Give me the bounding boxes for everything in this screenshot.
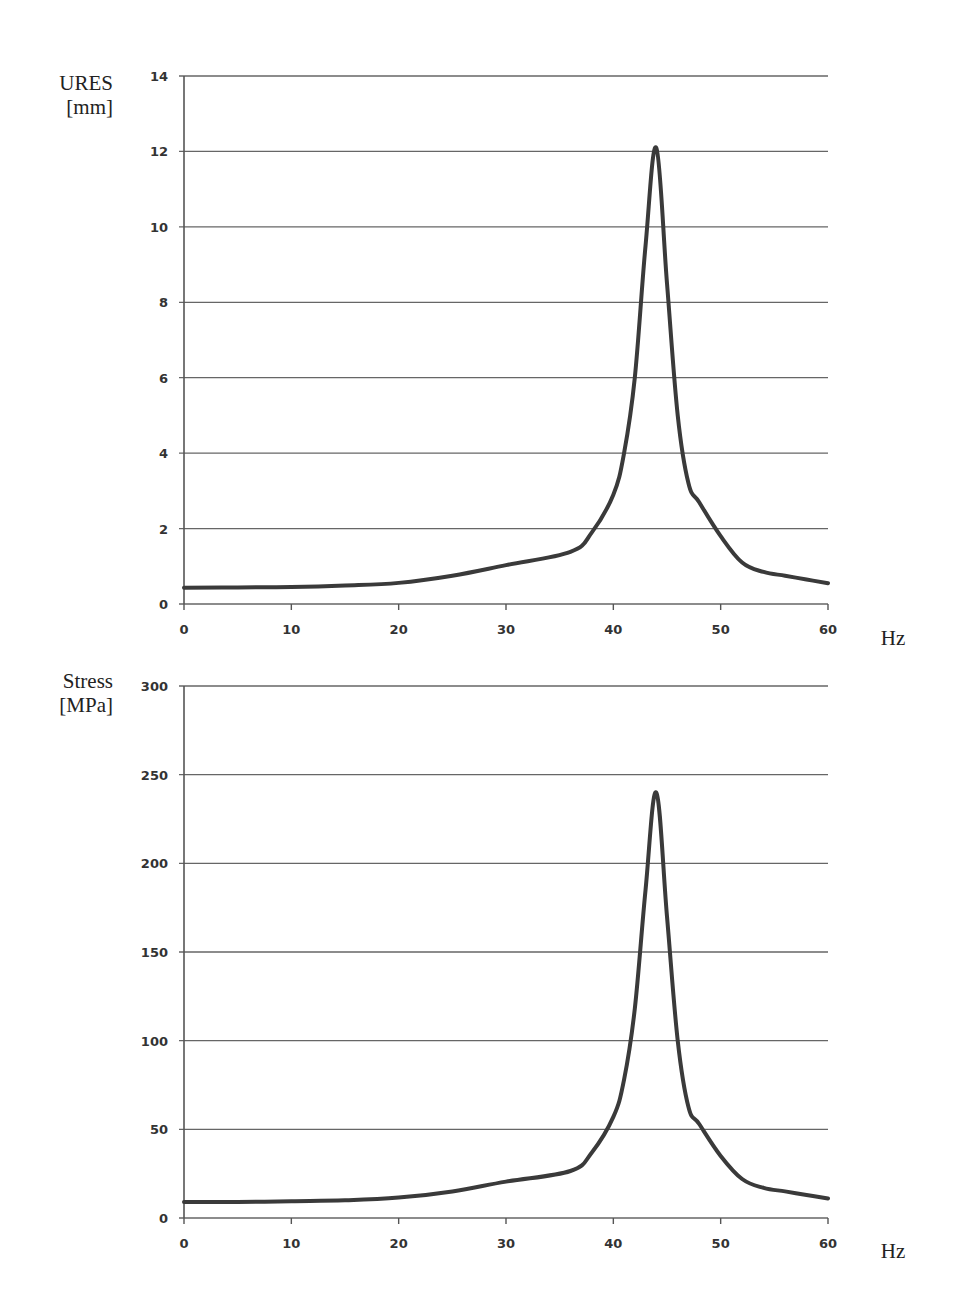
y-tick-label: 8 xyxy=(159,295,168,310)
y-tick-label: 14 xyxy=(150,69,168,84)
y-tick-label: 50 xyxy=(150,1122,168,1137)
x-tick-label: 30 xyxy=(497,622,515,637)
y-axis-label: Stress xyxy=(63,669,113,693)
x-tick-label: 50 xyxy=(712,622,730,637)
y-axis-label: [MPa] xyxy=(59,693,113,717)
resonance-charts: 024681012140102030405060URES[mm]Hz 05010… xyxy=(0,0,961,1315)
y-tick-label: 100 xyxy=(141,1034,168,1049)
x-axis-label: Hz xyxy=(881,1239,906,1263)
series-line-ures xyxy=(184,147,828,588)
y-tick-label: 150 xyxy=(141,945,168,960)
x-tick-label: 20 xyxy=(390,622,408,637)
stress-chart: 0501001502002503000102030405060Stress[MP… xyxy=(59,669,905,1263)
series-line-stress xyxy=(184,792,828,1202)
y-axis-label: URES xyxy=(59,71,113,95)
x-tick-label: 10 xyxy=(282,622,300,637)
y-tick-label: 0 xyxy=(159,1211,168,1226)
y-tick-label: 200 xyxy=(141,856,168,871)
y-tick-label: 0 xyxy=(159,597,168,612)
y-tick-label: 250 xyxy=(141,768,168,783)
y-tick-label: 6 xyxy=(159,371,168,386)
x-tick-label: 60 xyxy=(819,622,837,637)
y-tick-label: 10 xyxy=(150,220,168,235)
x-axis-label: Hz xyxy=(881,626,906,650)
x-tick-label: 20 xyxy=(390,1236,408,1251)
y-tick-label: 2 xyxy=(159,522,168,537)
x-tick-label: 40 xyxy=(604,1236,622,1251)
x-tick-label: 50 xyxy=(712,1236,730,1251)
y-tick-label: 300 xyxy=(141,679,168,694)
x-tick-label: 30 xyxy=(497,1236,515,1251)
y-axis-label: [mm] xyxy=(66,95,113,119)
x-tick-label: 0 xyxy=(179,622,188,637)
ures-chart: 024681012140102030405060URES[mm]Hz xyxy=(59,69,905,650)
x-tick-label: 10 xyxy=(282,1236,300,1251)
x-tick-label: 40 xyxy=(604,622,622,637)
y-tick-label: 12 xyxy=(150,144,168,159)
x-tick-label: 60 xyxy=(819,1236,837,1251)
y-tick-label: 4 xyxy=(159,446,168,461)
x-tick-label: 0 xyxy=(179,1236,188,1251)
